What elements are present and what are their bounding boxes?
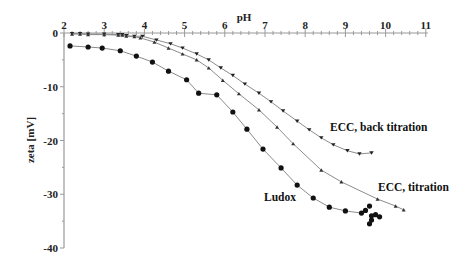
circle-marker: [295, 183, 300, 188]
series-line: [70, 46, 361, 213]
circle-marker: [311, 195, 316, 200]
circle-marker: [377, 214, 382, 219]
x-tick-label: 7: [262, 19, 268, 31]
circle-marker: [244, 127, 249, 132]
circle-marker: [278, 165, 283, 170]
circle-marker: [214, 92, 219, 97]
y-tick-label: -40: [43, 242, 58, 254]
label-back-titration: ECC, back titration: [330, 121, 428, 133]
label-ludox: Ludox: [264, 191, 296, 203]
circle-marker: [367, 221, 372, 226]
circle-marker: [86, 44, 91, 49]
triangle-up-marker: [376, 197, 380, 200]
circle-marker: [196, 91, 201, 96]
x-tick-label: 11: [421, 19, 431, 31]
x-tick-label: 5: [182, 19, 188, 31]
x-tick-label: 2: [61, 19, 67, 31]
circle-marker: [260, 147, 265, 152]
x-tick-label: 3: [101, 19, 107, 31]
circle-marker: [343, 208, 348, 213]
circle-marker: [150, 59, 155, 64]
x-tick-label: 9: [343, 19, 349, 31]
y-tick-label: -30: [43, 188, 58, 200]
x-axis-title: pH: [237, 11, 252, 23]
circle-marker: [67, 43, 72, 48]
series-line: [72, 34, 371, 154]
triangle-down-marker: [331, 143, 335, 146]
triangle-up-marker: [402, 208, 406, 211]
circle-marker: [166, 69, 171, 74]
circle-marker: [230, 109, 235, 114]
circle-marker: [134, 54, 139, 59]
y-tick-label: -20: [43, 135, 58, 147]
x-tick-label: 8: [302, 19, 308, 31]
circle-marker: [367, 203, 372, 208]
circle-marker: [327, 205, 332, 210]
triangle-down-marker: [180, 46, 184, 49]
circle-marker: [118, 48, 123, 53]
x-tick-label: 4: [142, 19, 148, 31]
y-tick-label: -10: [43, 81, 58, 93]
y-tick-label: 0: [53, 27, 59, 39]
x-tick-label: 6: [222, 19, 228, 31]
circle-marker: [184, 77, 189, 82]
x-tick-label: 10: [380, 19, 392, 31]
y-axis-title: zeta [mV]: [24, 117, 36, 163]
circle-marker: [363, 208, 368, 213]
circle-marker: [100, 45, 105, 50]
zeta-potential-chart: 2345678910110-10-20-30-40 pH zeta [mV] E…: [0, 0, 465, 268]
label-titration: ECC, titration: [378, 181, 450, 193]
